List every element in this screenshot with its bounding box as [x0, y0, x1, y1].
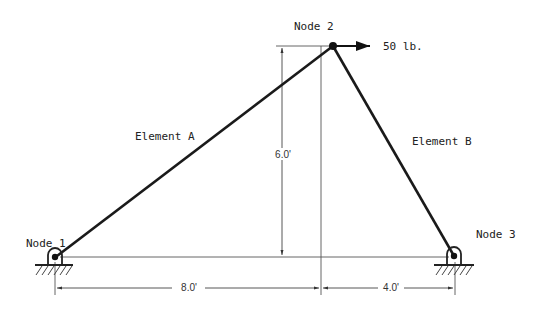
node-1-label: Node 1: [26, 237, 66, 250]
node-2-label: Node 2: [294, 20, 334, 33]
element-a-member: [57, 46, 333, 256]
dimension-vertical-label: 6.0': [275, 149, 291, 160]
dimension-horizontal-right: 4.0': [323, 282, 453, 293]
truss-diagram: 6.0' 8.0' 4.0' 50 lb. Node 2 Node 1: [0, 0, 546, 310]
dimension-left-label: 8.0': [181, 282, 197, 293]
dimension-horizontal-left: 8.0': [57, 282, 319, 293]
node-3-pin-support-icon: [434, 247, 474, 275]
node-2-joint-icon: [329, 42, 337, 50]
node-1-pin-support-icon: [35, 248, 73, 275]
element-a-label: Element A: [135, 130, 195, 143]
node-3-label: Node 3: [476, 228, 516, 241]
load-label: 50 lb.: [383, 40, 423, 53]
element-b-member: [333, 46, 454, 256]
dimension-right-label: 4.0': [383, 282, 399, 293]
element-b-label: Element B: [412, 135, 472, 148]
